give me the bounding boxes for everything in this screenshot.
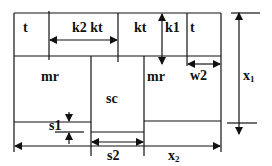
label-s2: s2 <box>107 148 119 163</box>
label-mr-right: mr <box>147 69 165 84</box>
label-s1: s1 <box>49 118 61 133</box>
dimension-diagram: t k2 kt kt k1 t mr sc mr w2 x1 s1 s2 x2 <box>0 0 272 166</box>
label-k2kt: k2 kt <box>72 20 103 35</box>
label-k1: k1 <box>165 20 180 35</box>
label-w2: w2 <box>190 68 207 83</box>
label-t-left: t <box>23 20 28 35</box>
label-x2: x2 <box>168 148 180 164</box>
label-x1: x1 <box>243 68 255 84</box>
label-sc: sc <box>106 91 118 106</box>
label-mr-left: mr <box>41 69 59 84</box>
label-t-right: t <box>190 20 195 35</box>
label-kt: kt <box>134 20 147 35</box>
